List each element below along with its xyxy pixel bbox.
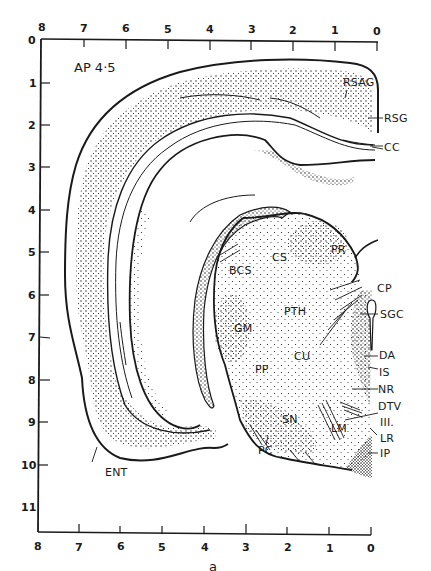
label-cu: CU [294, 351, 310, 362]
top-tick-label: 6 [122, 23, 130, 34]
top-tick-label: 5 [164, 24, 172, 35]
left-axis-line [38, 39, 41, 532]
label-lr: LR [380, 433, 394, 444]
left-tick-label: 11 [21, 502, 36, 513]
left-tick-label: 0 [28, 35, 36, 46]
left-tick-label: 9 [28, 417, 36, 428]
label-rsg: RSG [384, 113, 408, 124]
top-tick-label: 1 [331, 25, 339, 36]
label-rsag: RSAG [343, 77, 375, 88]
label-cs: CS [272, 252, 287, 263]
bottom-tick-label: 1 [326, 543, 334, 554]
figure-caption: a [209, 560, 217, 571]
left-tick-label: 4 [28, 205, 36, 216]
top-tick-label: 0 [373, 26, 381, 37]
left-tick-label: 2 [28, 120, 36, 131]
left-tick-label: 3 [28, 162, 36, 173]
label-ip: IP [380, 448, 390, 459]
atlas-plate: AP 4·5 8 7 6 5 4 3 2 1 0 0 1 2 3 4 5 6 7… [0, 0, 431, 571]
bottom-tick-label: 5 [158, 542, 166, 553]
bottom-tick-label: 4 [201, 542, 209, 553]
label-cc: CC [384, 142, 400, 153]
left-tick-label: 7 [28, 332, 36, 343]
bottom-tick-label: 2 [284, 542, 292, 553]
top-tick-label: 7 [80, 23, 88, 34]
bottom-tick-label: 0 [367, 543, 375, 554]
left-tick-label: 5 [28, 247, 36, 258]
bottom-tick-label: 3 [242, 542, 250, 553]
label-da: DA [379, 350, 395, 361]
label-cp: CP [377, 283, 392, 294]
label-pr: PR [331, 244, 346, 255]
label-is: IS [379, 367, 390, 378]
hippocampus-band [250, 150, 356, 185]
label-sgc: SGC [380, 309, 404, 320]
top-tick-label: 8 [38, 22, 46, 33]
label-lm: LM [331, 423, 347, 434]
label-pc: PC [258, 445, 273, 456]
bottom-tick-label: 8 [34, 541, 42, 552]
label-iii: III. [380, 417, 394, 428]
label-pp: PP [255, 364, 269, 375]
left-tick-label: 8 [28, 375, 36, 386]
hippocampus-lateral-strip [129, 210, 170, 418]
label-gm: GM [234, 323, 252, 334]
label-dtv: DTV [378, 401, 401, 412]
label-pth: PTH [284, 306, 306, 317]
label-nr: NR [378, 384, 394, 395]
bottom-tick-label: 6 [117, 541, 125, 552]
top-tick-label: 3 [248, 24, 256, 35]
label-sn: SN [282, 414, 298, 425]
top-tick-label: 4 [206, 24, 214, 35]
top-tick-label: 2 [289, 25, 297, 36]
bottom-tick-label: 7 [75, 542, 83, 553]
section-label: AP 4·5 [74, 61, 116, 74]
left-tick-label: 6 [28, 290, 36, 301]
left-tick-label: 1 [29, 78, 37, 89]
label-bcs: BCS [229, 265, 252, 276]
label-ent: ENT [105, 467, 128, 478]
left-tick-label: 10 [21, 460, 36, 471]
